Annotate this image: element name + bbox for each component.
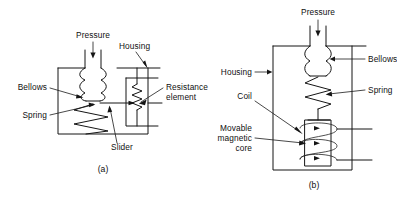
pressure-arrow-a: [90, 42, 95, 58]
label-core-line3-b: core: [235, 143, 252, 153]
label-bellows-b: Bellows: [368, 54, 397, 64]
figure-root: Pressure Housing Bellows Spring Slider R…: [0, 0, 397, 198]
label-housing-b: Housing: [221, 67, 252, 77]
label-resistance-element-line1-a: Resistance: [166, 82, 208, 92]
diagram-canvas: Pressure Housing Bellows Spring Slider R…: [0, 0, 397, 198]
label-coil-b: Coil: [237, 91, 252, 101]
label-core-line2-b: magnetic: [218, 133, 252, 143]
label-bellows-a: Bellows: [18, 82, 47, 92]
caption-b: (b): [309, 180, 320, 190]
bellows-a: [80, 68, 107, 101]
label-spring-a: Spring: [22, 110, 47, 120]
slider-link-a: [100, 101, 135, 105]
label-pressure-a: Pressure: [76, 30, 110, 40]
label-core-line1-b: Movable: [220, 123, 252, 133]
caption-a: (a): [98, 164, 109, 174]
resistance-element-a: [126, 68, 162, 126]
label-resistance-element-line2-a: element: [166, 92, 197, 102]
diagram-b-group: Pressure Bellows Spring Housing Coil Mov…: [218, 7, 397, 190]
diagram-a-group: Pressure Housing Bellows Spring Slider R…: [18, 30, 209, 174]
coil-b: [300, 123, 372, 161]
spring-b: [305, 77, 331, 120]
label-housing-a: Housing: [119, 41, 150, 51]
pressure-arrow-b: [315, 20, 320, 36]
label-spring-b: Spring: [368, 85, 393, 95]
bellows-b: [305, 46, 332, 76]
label-pressure-b: Pressure: [301, 7, 335, 17]
label-slider-a: Slider: [111, 142, 133, 152]
